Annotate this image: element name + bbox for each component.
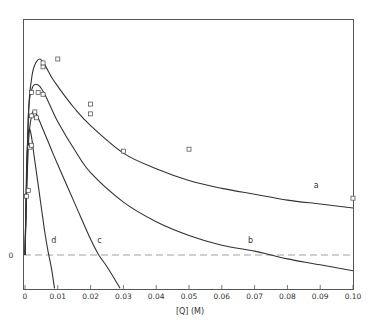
square-marker bbox=[30, 90, 34, 94]
chart: 00.010.020.030.040.050.060.070.080.090.1… bbox=[0, 0, 378, 326]
square-marker bbox=[187, 147, 191, 151]
curve-label-a: a bbox=[314, 181, 319, 190]
x-tick-label: 0.05 bbox=[181, 292, 198, 301]
square-marker bbox=[89, 112, 93, 116]
x-tick-label: 0.02 bbox=[82, 292, 99, 301]
x-tick-label: 0.08 bbox=[279, 292, 296, 301]
x-tick-label: 0.03 bbox=[115, 292, 132, 301]
square-marker bbox=[41, 65, 45, 69]
y-axis-zero-label: 0 bbox=[9, 251, 14, 260]
curve-label-b: b bbox=[248, 236, 253, 245]
square-marker bbox=[34, 116, 38, 120]
curve-a bbox=[25, 59, 353, 255]
square-marker bbox=[89, 102, 93, 106]
x-axis-ticks bbox=[25, 285, 353, 289]
square-marker bbox=[56, 57, 60, 61]
curve-d bbox=[25, 129, 55, 288]
square-marker bbox=[33, 110, 37, 114]
square-marker bbox=[26, 188, 30, 192]
curve-c bbox=[25, 111, 120, 288]
x-tick-label: 0.10 bbox=[345, 292, 362, 301]
curve-label-c: c bbox=[97, 236, 101, 245]
square-marker bbox=[30, 114, 34, 118]
curve-b bbox=[25, 84, 353, 270]
x-tick-label: 0 bbox=[23, 292, 28, 301]
square-marker bbox=[30, 143, 34, 147]
square-marker bbox=[121, 149, 125, 153]
x-axis-title: [Q] (M) bbox=[176, 307, 204, 316]
square-marker bbox=[36, 90, 40, 94]
square-marker bbox=[25, 194, 29, 198]
x-tick-label: 0.07 bbox=[246, 292, 263, 301]
curves bbox=[25, 59, 353, 288]
data-markers bbox=[25, 57, 355, 200]
x-tick-label: 0.09 bbox=[312, 292, 329, 301]
plot-frame bbox=[24, 20, 354, 290]
x-tick-label: 0.04 bbox=[148, 292, 165, 301]
curve-label-d: d bbox=[51, 236, 56, 245]
square-marker bbox=[351, 196, 355, 200]
square-marker bbox=[41, 92, 45, 96]
x-tick-label: 0.01 bbox=[49, 292, 66, 301]
x-axis-tick-labels: 00.010.020.030.040.050.060.070.080.090.1… bbox=[23, 292, 362, 301]
x-tick-label: 0.06 bbox=[213, 292, 230, 301]
curve-labels: abcd bbox=[51, 181, 318, 245]
square-marker bbox=[41, 61, 45, 65]
